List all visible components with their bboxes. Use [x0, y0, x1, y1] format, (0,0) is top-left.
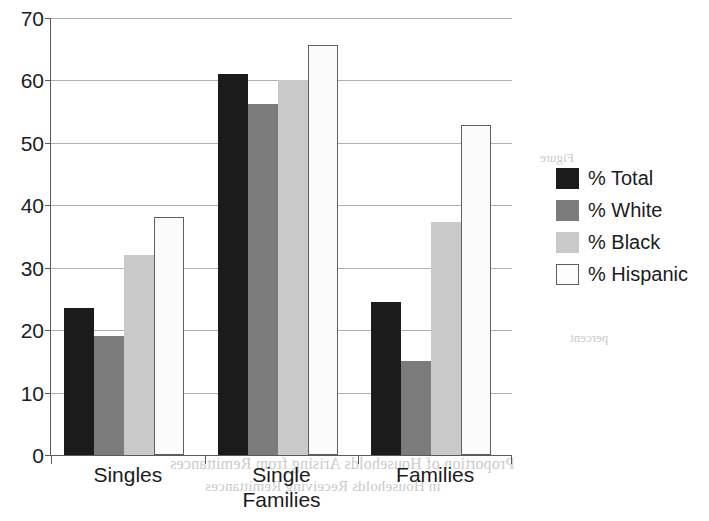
- bar: [94, 336, 124, 455]
- bar: [124, 255, 154, 455]
- y-tick-label-30: 30: [0, 258, 44, 279]
- y-axis-labels: 010203040506070: [0, 18, 44, 455]
- y-tick-mark-70: [45, 18, 51, 19]
- y-tick-label-10: 10: [0, 383, 44, 404]
- legend-item: % Hispanic: [556, 259, 706, 289]
- legend-item: % Black: [556, 227, 706, 257]
- bar: [154, 217, 184, 455]
- gridline-70: [51, 18, 512, 19]
- y-tick-label-50: 50: [0, 133, 44, 154]
- bar-chart-figure: Proportion of Households Arising from Re…: [0, 0, 709, 521]
- legend-swatch-total-icon: [556, 168, 579, 189]
- legend-item-label: % Total: [588, 168, 653, 188]
- x-axis-label-singles: Singles: [51, 462, 205, 487]
- chart-legend: % Total% White% Black% Hispanic: [556, 163, 706, 291]
- legend-item: % White: [556, 195, 706, 225]
- bar: [461, 125, 491, 455]
- y-tick-mark-60: [45, 80, 51, 81]
- bar: [248, 104, 278, 455]
- y-tick-label-70: 70: [0, 8, 44, 29]
- x-axis-labels: SinglesSingle FamiliesFamilies: [51, 462, 512, 520]
- y-tick-mark-30: [45, 268, 51, 269]
- legend-item-label: % Black: [588, 232, 660, 252]
- x-axis-label-families: Families: [358, 462, 512, 487]
- bar: [308, 45, 338, 455]
- y-tick-label-20: 20: [0, 320, 44, 341]
- y-tick-mark-20: [45, 330, 51, 331]
- bar: [431, 222, 461, 455]
- y-tick-label-0: 0: [0, 445, 44, 466]
- y-tick-mark-50: [45, 143, 51, 144]
- legend-swatch-hispanic-icon: [556, 264, 579, 285]
- bar: [278, 80, 308, 455]
- legend-swatch-white-icon: [556, 200, 579, 221]
- bar: [218, 74, 248, 455]
- y-tick-label-60: 60: [0, 70, 44, 91]
- y-tick-label-40: 40: [0, 195, 44, 216]
- plot-area: [51, 18, 512, 455]
- x-axis-label-single-families: Single Families: [205, 462, 359, 512]
- bar: [401, 361, 431, 455]
- y-tick-mark-40: [45, 205, 51, 206]
- y-tick-mark-10: [45, 393, 51, 394]
- legend-item-label: % Hispanic: [588, 264, 688, 284]
- legend-item: % Total: [556, 163, 706, 193]
- legend-item-label: % White: [588, 200, 662, 220]
- legend-swatch-black-icon: [556, 232, 579, 253]
- y-axis-line: [50, 18, 51, 456]
- scan-bleed-text: percent: [570, 330, 608, 346]
- bar: [371, 302, 401, 455]
- bar: [64, 308, 94, 455]
